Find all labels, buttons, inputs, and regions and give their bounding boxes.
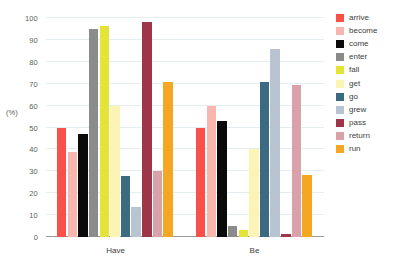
legend-item-fall[interactable]: fall bbox=[336, 64, 402, 77]
legend-swatch-icon bbox=[336, 145, 344, 153]
legend-item-label: arrive bbox=[349, 14, 369, 22]
legend-swatch-icon bbox=[336, 66, 344, 74]
legend-item-label: become bbox=[349, 27, 377, 35]
legend-item-label: grew bbox=[349, 106, 366, 114]
bar bbox=[131, 207, 140, 237]
legend-item-label: return bbox=[349, 132, 370, 140]
y-axis-tick-label: 70 bbox=[29, 79, 38, 88]
legend-swatch-icon bbox=[336, 93, 344, 101]
legend-swatch-icon bbox=[336, 53, 344, 61]
y-axis-tick-label: 80 bbox=[29, 57, 38, 66]
legend-swatch-icon bbox=[336, 106, 344, 114]
bar bbox=[196, 128, 205, 238]
y-axis-tick-label: 30 bbox=[29, 167, 38, 176]
y-axis: 0102030405060708090100(%) bbox=[0, 18, 44, 237]
legend-swatch-icon bbox=[336, 80, 344, 88]
legend: arrivebecomecomeenterfallgetgogrewpassre… bbox=[336, 11, 402, 156]
y-axis-tick-label: 10 bbox=[29, 211, 38, 220]
legend-item-enter[interactable]: enter bbox=[336, 51, 402, 64]
legend-item-label: pass bbox=[349, 119, 366, 127]
bar bbox=[78, 134, 87, 237]
legend-item-run[interactable]: run bbox=[336, 143, 402, 156]
bar-group bbox=[196, 18, 313, 237]
x-axis-category-label: Be bbox=[250, 246, 260, 255]
y-axis-tick-label: 90 bbox=[29, 35, 38, 44]
y-axis-tick-label: 60 bbox=[29, 101, 38, 110]
legend-item-come[interactable]: come bbox=[336, 37, 402, 50]
legend-swatch-icon bbox=[336, 27, 344, 35]
bar bbox=[228, 226, 237, 237]
bar bbox=[302, 175, 311, 237]
x-axis: HaveBe bbox=[46, 237, 324, 261]
bar bbox=[110, 106, 119, 237]
bar bbox=[142, 22, 151, 237]
bar bbox=[163, 82, 172, 237]
legend-swatch-icon bbox=[336, 40, 344, 48]
legend-swatch-icon bbox=[336, 119, 344, 127]
bar-group bbox=[57, 18, 174, 237]
bar bbox=[249, 149, 258, 237]
bar bbox=[207, 106, 216, 237]
legend-item-label: fall bbox=[349, 66, 359, 74]
y-axis-tick-label: 40 bbox=[29, 145, 38, 154]
legend-swatch-icon bbox=[336, 14, 344, 22]
legend-item-pass[interactable]: pass bbox=[336, 117, 402, 130]
y-axis-tick-label: 100 bbox=[25, 14, 38, 23]
bar bbox=[57, 128, 66, 238]
bar bbox=[100, 26, 109, 237]
legend-item-grew[interactable]: grew bbox=[336, 103, 402, 116]
legend-item-become[interactable]: become bbox=[336, 24, 402, 37]
legend-item-go[interactable]: go bbox=[336, 90, 402, 103]
legend-item-label: go bbox=[349, 93, 358, 101]
bar bbox=[121, 176, 130, 237]
bar bbox=[270, 49, 279, 237]
y-axis-tick-label: 50 bbox=[29, 123, 38, 132]
bar bbox=[292, 85, 301, 237]
y-axis-tick-label: 20 bbox=[29, 189, 38, 198]
x-axis-category-label: Have bbox=[106, 246, 125, 255]
legend-item-arrive[interactable]: arrive bbox=[336, 11, 402, 24]
legend-item-label: get bbox=[349, 80, 360, 88]
bar bbox=[68, 152, 77, 237]
bar bbox=[260, 82, 269, 237]
bar bbox=[153, 171, 162, 237]
legend-item-label: come bbox=[349, 40, 369, 48]
bar-chart: 0102030405060708090100(%) HaveBe arriveb… bbox=[0, 0, 405, 270]
bar bbox=[217, 121, 226, 237]
y-axis-tick-label: 0 bbox=[34, 233, 38, 242]
legend-item-label: run bbox=[349, 145, 361, 153]
legend-item-get[interactable]: get bbox=[336, 77, 402, 90]
y-axis-title: (%) bbox=[6, 108, 18, 117]
bar bbox=[89, 29, 98, 237]
legend-item-return[interactable]: return bbox=[336, 130, 402, 143]
plot-area bbox=[46, 18, 324, 237]
legend-item-label: enter bbox=[349, 53, 367, 61]
legend-swatch-icon bbox=[336, 132, 344, 140]
